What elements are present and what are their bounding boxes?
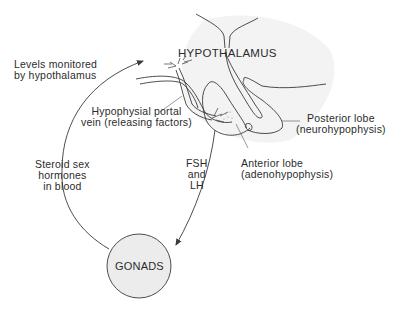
steroid-hormones-label: Steroid sex hormones in blood — [35, 159, 90, 192]
portal-vein-label: Hypophysial portal vein (releasing facto… — [81, 106, 192, 128]
posterior-lobe-label: Posterior lobe (neurohypophysis) — [296, 113, 386, 135]
anterior-lobe-label: Anterior lobe (adenohypophysis) — [241, 158, 333, 180]
gonads-label: GONADS — [115, 261, 164, 272]
hypothalamus-label: HYPOTHALAMUS — [178, 48, 277, 59]
feedback-arrow — [62, 61, 143, 249]
levels-monitored-label: Levels monitored by hypothalamus — [14, 59, 97, 81]
fsh-lh-label: FSH and LH — [186, 158, 208, 191]
